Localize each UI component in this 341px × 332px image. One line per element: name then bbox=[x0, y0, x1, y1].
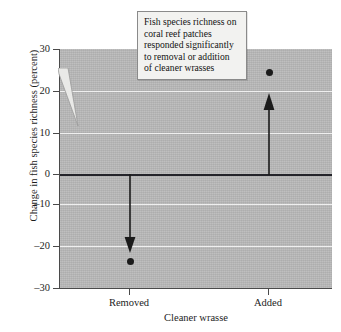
zero-line bbox=[60, 174, 332, 176]
y-tick-neg10 bbox=[53, 204, 60, 205]
y-tick-30 bbox=[53, 49, 60, 50]
annotation-callout-box: Fish species richness on coral reef patc… bbox=[137, 11, 247, 80]
data-point-added bbox=[266, 69, 273, 76]
x-axis-title: Cleaner wrasse bbox=[60, 312, 332, 324]
callout-line-3: responded significantly bbox=[144, 39, 241, 51]
gridline-20 bbox=[60, 91, 332, 92]
y-tick-neg20 bbox=[53, 246, 60, 247]
callout-line-5: of cleaner wrasses bbox=[144, 62, 241, 74]
x-tick-label-removed: Removed bbox=[109, 297, 149, 309]
x-tick-label-added: Added bbox=[254, 297, 282, 309]
callout-line-2: coral reef patches bbox=[144, 28, 241, 40]
x-axis-spine bbox=[59, 288, 332, 289]
y-tick-neg30 bbox=[53, 288, 60, 289]
plot-area bbox=[60, 49, 332, 288]
figure-container: 30 20 10 0 –10 –20 –30 Removed Added Cha… bbox=[0, 0, 341, 332]
y-axis-title: Change in fish species richness (percent… bbox=[28, 31, 39, 241]
effect-arrow-added bbox=[261, 92, 277, 175]
gridline-10 bbox=[60, 133, 332, 134]
data-point-removed bbox=[127, 258, 134, 265]
effect-arrow-removed bbox=[122, 174, 138, 254]
callout-pointer-icon bbox=[58, 68, 98, 130]
y-tick-label-neg20: –20 bbox=[10, 241, 50, 252]
callout-line-1: Fish species richness on bbox=[144, 16, 241, 28]
annotation-callout: Fish species richness on coral reef patc… bbox=[137, 11, 247, 80]
x-tick-removed bbox=[129, 289, 130, 295]
x-tick-added bbox=[268, 289, 269, 295]
gridline-neg10 bbox=[60, 204, 332, 205]
y-tick-10 bbox=[53, 133, 60, 134]
y-tick-0 bbox=[53, 174, 60, 175]
callout-line-4: to removal or addition bbox=[144, 51, 241, 63]
y-tick-label-neg30: –30 bbox=[10, 283, 50, 294]
gridline-neg20 bbox=[60, 246, 332, 247]
